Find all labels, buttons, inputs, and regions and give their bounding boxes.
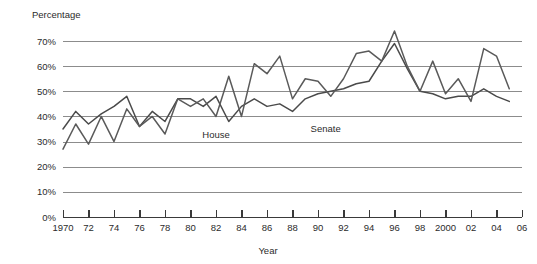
x-tick-label-2000: 2000 bbox=[435, 222, 456, 233]
x-tick-label-1980: 80 bbox=[185, 222, 196, 233]
y-tick-label-60: 60% bbox=[37, 61, 57, 72]
y-tick-label-70: 70% bbox=[37, 36, 57, 47]
series-annotations: HouseSenate bbox=[202, 123, 340, 140]
y-tick-label-0: 0% bbox=[42, 212, 56, 223]
x-tick-label-1988: 88 bbox=[287, 222, 298, 233]
series-label-senate: Senate bbox=[311, 123, 341, 134]
x-tick-label-1976: 76 bbox=[134, 222, 145, 233]
x-tick-label-1994: 94 bbox=[364, 222, 375, 233]
x-tick-label-1986: 86 bbox=[262, 222, 273, 233]
y-tick-label-30: 30% bbox=[37, 136, 57, 147]
data-series bbox=[63, 31, 509, 149]
series-line-senate bbox=[63, 31, 509, 149]
x-tick-label-1972: 72 bbox=[83, 222, 94, 233]
x-tick-label-2002: 02 bbox=[466, 222, 477, 233]
chart-container: 0%10%20%30%40%50%60%70% 1970727476788082… bbox=[0, 0, 537, 264]
y-tick-label-50: 50% bbox=[37, 86, 57, 97]
x-tick-label-1978: 78 bbox=[160, 222, 171, 233]
x-tick-label-1974: 74 bbox=[109, 222, 120, 233]
x-axis-title: Year bbox=[258, 245, 277, 256]
y-axis-tick-labels: 0%10%20%30%40%50%60%70% bbox=[37, 36, 57, 223]
x-tick-label-2006: 06 bbox=[517, 222, 528, 233]
y-tick-label-10: 10% bbox=[37, 186, 57, 197]
y-axis-title: Percentage bbox=[32, 9, 81, 20]
x-axis-tick-labels: 1970727476788082848688909294969820000204… bbox=[52, 222, 527, 233]
x-tick-label-1992: 92 bbox=[338, 222, 349, 233]
x-tick-label-1998: 98 bbox=[415, 222, 426, 233]
y-tick-label-20: 20% bbox=[37, 161, 57, 172]
line-chart: 0%10%20%30%40%50%60%70% 1970727476788082… bbox=[0, 0, 537, 264]
x-tick-label-1996: 96 bbox=[389, 222, 400, 233]
x-tick-label-1990: 90 bbox=[313, 222, 324, 233]
y-tick-label-40: 40% bbox=[37, 111, 57, 122]
x-tick-label-1970: 1970 bbox=[52, 222, 73, 233]
x-tick-label-1984: 84 bbox=[236, 222, 247, 233]
series-label-house: House bbox=[202, 129, 229, 140]
x-tick-label-1982: 82 bbox=[211, 222, 222, 233]
x-axis bbox=[63, 210, 523, 218]
x-tick-label-2004: 04 bbox=[491, 222, 502, 233]
